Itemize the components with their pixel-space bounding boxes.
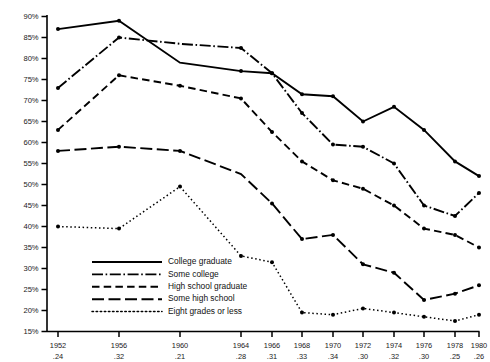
- y-axis-tick-label: 55%: [24, 159, 39, 168]
- x-axis-year-label: 1952: [50, 341, 66, 350]
- x-axis-year-label: 1976: [416, 341, 432, 350]
- data-point: [117, 227, 121, 231]
- data-point: [270, 201, 274, 205]
- y-axis-tick-label: 90%: [24, 12, 39, 21]
- data-point: [331, 94, 335, 98]
- data-point: [392, 162, 396, 166]
- y-axis-tick-label: 85%: [24, 33, 39, 42]
- data-point: [477, 174, 481, 178]
- data-point: [392, 204, 396, 208]
- data-point: [361, 187, 365, 191]
- data-point: [56, 86, 60, 90]
- series-line-eight-grades-or-less: [58, 187, 479, 321]
- data-point: [178, 185, 182, 189]
- y-axis-tick-label: 40%: [24, 222, 39, 231]
- x-axis-year-label: 1964: [233, 341, 249, 350]
- y-axis-tick-label: 20%: [24, 306, 39, 315]
- data-point: [477, 283, 481, 287]
- data-point: [56, 128, 60, 132]
- x-axis-year-label: 1972: [355, 341, 371, 350]
- y-axis-tick-label: 50%: [24, 180, 39, 189]
- data-point: [361, 262, 365, 266]
- x-axis-sub-label: .30: [358, 352, 368, 361]
- data-point: [270, 260, 274, 264]
- data-point: [453, 159, 457, 163]
- data-point: [422, 204, 426, 208]
- data-point: [477, 191, 481, 195]
- data-point: [270, 71, 274, 75]
- data-point: [453, 214, 457, 218]
- data-point: [117, 145, 121, 149]
- series-line-high-school-graduate: [58, 75, 479, 247]
- series-layer: [56, 19, 481, 323]
- y-axis-tick-label: 80%: [24, 54, 39, 63]
- data-point: [56, 27, 60, 31]
- data-point: [178, 149, 182, 153]
- data-point: [453, 292, 457, 296]
- x-axis-year-label: 1980: [471, 341, 487, 350]
- data-point: [239, 254, 243, 258]
- line-chart: 90%85%80%75%70%65%60%55%50%45%40%35%30%2…: [0, 0, 490, 362]
- x-axis-sub-label: .30: [419, 352, 429, 361]
- x-axis-sub-label: .28: [236, 352, 246, 361]
- data-point: [422, 227, 426, 231]
- x-axis-year-label: 1960: [172, 341, 188, 350]
- data-point: [361, 145, 365, 149]
- data-point: [422, 315, 426, 319]
- y-axis: 90%85%80%75%70%65%60%55%50%45%40%35%30%2…: [24, 12, 47, 336]
- data-point: [331, 313, 335, 317]
- data-point: [361, 306, 365, 310]
- x-axis-sub-label: .34: [328, 352, 338, 361]
- x-axis-sub-label: .31: [267, 352, 277, 361]
- y-axis-tick-label: 35%: [24, 243, 39, 252]
- data-point: [300, 159, 304, 163]
- x-axis-sub-label: .33: [297, 352, 307, 361]
- data-point: [453, 233, 457, 237]
- y-axis-tick-label: 25%: [24, 285, 39, 294]
- data-point: [56, 225, 60, 229]
- legend-label: High school graduate: [168, 281, 247, 291]
- x-axis-year-label: 1978: [447, 341, 463, 350]
- y-axis-tick-label: 30%: [24, 264, 39, 273]
- data-point: [270, 130, 274, 134]
- y-axis-tick-label: 60%: [24, 138, 39, 147]
- x-axis-sub-label: .32: [114, 352, 124, 361]
- data-point: [422, 298, 426, 302]
- x-axis-sub-label: .25: [450, 352, 460, 361]
- x-axis-year-label: 1966: [264, 341, 280, 350]
- x-axis-year-label: 1970: [325, 341, 341, 350]
- data-point: [331, 178, 335, 182]
- data-point: [56, 149, 60, 153]
- x-axis-year-label: 1968: [294, 341, 310, 350]
- data-point: [117, 73, 121, 77]
- x-axis: 1952.241956.321960.211964.281966.311968.…: [47, 332, 487, 361]
- data-point: [300, 92, 304, 96]
- data-point: [300, 311, 304, 315]
- legend-label: Some high school: [168, 293, 235, 303]
- series-line-some-college: [58, 38, 479, 217]
- x-axis-sub-label: .26: [474, 352, 484, 361]
- chart-container: 90%85%80%75%70%65%60%55%50%45%40%35%30%2…: [0, 0, 490, 362]
- y-axis-tick-label: 65%: [24, 117, 39, 126]
- y-axis-tick-label: 70%: [24, 96, 39, 105]
- data-point: [392, 105, 396, 109]
- data-point: [392, 271, 396, 275]
- data-point: [392, 311, 396, 315]
- x-axis-sub-label: .24: [53, 352, 63, 361]
- data-point: [331, 143, 335, 147]
- series-line-college-graduate: [58, 21, 479, 176]
- data-point: [453, 319, 457, 323]
- data-point: [422, 128, 426, 132]
- data-point: [477, 313, 481, 317]
- legend-label: Some college: [168, 269, 219, 279]
- data-point: [117, 36, 121, 40]
- x-axis-year-label: 1956: [111, 341, 127, 350]
- chart-legend: College graduateSome collegeHigh school …: [92, 256, 247, 316]
- data-point: [239, 46, 243, 50]
- x-axis-year-label: 1974: [386, 341, 402, 350]
- data-point: [239, 96, 243, 100]
- data-point: [178, 84, 182, 88]
- legend-label: Eight grades or less: [168, 306, 242, 316]
- data-point: [239, 69, 243, 73]
- data-point: [300, 237, 304, 241]
